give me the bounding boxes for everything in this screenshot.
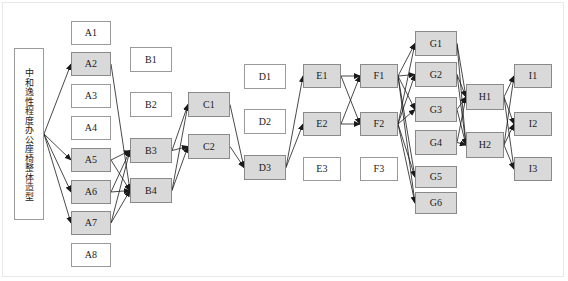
node-label: E1 [316,71,328,81]
node-b1[interactable]: B1 [130,47,172,72]
edge-c1-to-d3 [230,105,244,168]
edge-a5-to-b3 [111,151,130,161]
node-label: G3 [430,105,443,115]
edge-f1-to-g6 [398,76,415,203]
edge-g1-to-h1 [457,44,466,98]
node-d1[interactable]: D1 [244,64,286,89]
node-i1[interactable]: I1 [514,64,552,88]
edge-a6-to-b4 [111,191,130,193]
node-i3[interactable]: I3 [514,157,552,181]
edge-a7-to-b4 [111,191,130,224]
node-label: C1 [203,100,215,110]
node-label: A2 [85,59,98,69]
edge-d3-to-e1 [286,76,303,168]
node-c1[interactable]: C1 [188,92,230,117]
node-label: B3 [145,146,157,156]
node-a7[interactable]: A7 [71,211,111,235]
node-e3[interactable]: E3 [303,157,341,181]
edge-root-to-a6 [44,134,71,192]
node-label: D1 [259,72,272,82]
diagram-canvas: 中和逸性程度办公座椅整体造型 A1A2A3A4A5A6A7A8B1B2B3B4C… [0,0,568,281]
node-f3[interactable]: F3 [360,157,398,181]
node-e2[interactable]: E2 [303,112,341,136]
node-label: B1 [145,55,157,65]
node-g5[interactable]: G5 [415,166,457,188]
node-label: E3 [316,164,328,174]
edge-d3-to-e2 [286,124,303,168]
node-e1[interactable]: E1 [303,64,341,88]
node-label: F2 [374,119,385,129]
node-label: G5 [430,172,443,182]
root-node-label: 中和逸性程度办公座椅整体造型 [24,68,33,201]
node-label: A4 [85,123,98,133]
node-d3[interactable]: D3 [244,155,286,180]
node-label: A8 [85,250,98,260]
node-label: G2 [430,70,443,80]
node-label: A5 [85,155,98,165]
node-label: I1 [529,71,538,81]
node-label: B2 [145,100,157,110]
node-label: I3 [529,164,538,174]
node-a5[interactable]: A5 [71,148,111,172]
edge-root-to-a2 [44,64,71,134]
node-f1[interactable]: F1 [360,64,398,88]
node-label: G4 [430,138,443,148]
edge-b3-to-c1 [172,105,188,151]
node-label: G1 [430,39,443,49]
node-a4[interactable]: A4 [71,116,111,140]
node-label: C2 [203,142,215,152]
node-label: I2 [529,119,538,129]
edge-g4-to-h2 [457,143,466,146]
node-a3[interactable]: A3 [71,84,111,108]
node-f2[interactable]: F2 [360,112,398,136]
node-a6[interactable]: A6 [71,180,111,204]
node-g4[interactable]: G4 [415,130,457,155]
node-label: B4 [145,186,157,196]
node-root[interactable]: 中和逸性程度办公座椅整体造型 [14,48,44,220]
node-b2[interactable]: B2 [130,92,172,117]
edge-f1-to-g2 [398,75,415,77]
node-g1[interactable]: G1 [415,31,457,56]
node-a1[interactable]: A1 [71,21,111,45]
node-g6[interactable]: G6 [415,192,457,214]
node-g2[interactable]: G2 [415,62,457,87]
node-label: H2 [479,140,492,150]
node-a8[interactable]: A8 [71,243,111,267]
node-b3[interactable]: B3 [130,138,172,163]
node-label: G6 [430,198,443,208]
node-label: D3 [259,163,272,173]
node-b4[interactable]: B4 [130,178,172,203]
node-label: D2 [259,117,272,127]
node-h1[interactable]: H1 [466,84,504,110]
node-label: F1 [374,71,385,81]
edge-f2-to-g5 [398,124,415,177]
node-label: E2 [316,119,328,129]
node-label: A1 [85,28,98,38]
node-c2[interactable]: C2 [188,134,230,159]
node-label: F3 [374,164,385,174]
node-label: A6 [85,187,98,197]
node-label: A7 [85,218,98,228]
node-d2[interactable]: D2 [244,109,286,134]
node-i2[interactable]: I2 [514,112,552,136]
edge-a7-to-b3 [111,151,130,224]
node-h2[interactable]: H2 [466,132,504,158]
node-g3[interactable]: G3 [415,97,457,122]
edge-f1-to-g1 [398,44,415,77]
edge-b4-to-c2 [172,147,188,191]
node-label: A3 [85,91,98,101]
node-a2[interactable]: A2 [71,52,111,76]
node-label: H1 [479,92,492,102]
